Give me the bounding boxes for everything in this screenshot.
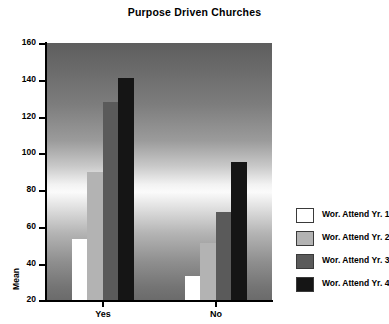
x-tick-label-no: No (186, 309, 246, 319)
legend-swatch-icon (296, 254, 314, 269)
bar-chart: Purpose Driven Churches 160 140 120 100 … (0, 0, 389, 324)
legend-swatch-icon (296, 277, 314, 292)
y-tick-mark-160 (39, 43, 46, 45)
legend-item[interactable]: Wor. Attend Yr. 4 (296, 275, 388, 298)
y-tick-mark-140 (39, 80, 46, 82)
y-tick-mark-80 (39, 190, 46, 192)
y-tick-mark-20 (39, 300, 46, 302)
bar-no-series-2 (200, 243, 216, 300)
y-tick-label-160: 160 (0, 38, 36, 47)
legend-swatch-icon (296, 231, 314, 246)
bar-no-series-4 (231, 162, 247, 300)
y-axis-title: Mean (11, 257, 21, 301)
bar-no-series-3 (216, 212, 232, 300)
y-tick-mark-60 (39, 227, 46, 229)
legend-item-label: Wor. Attend Yr. 2 (322, 232, 389, 243)
legend-item-label: Wor. Attend Yr. 1 (322, 209, 389, 220)
bar-yes-series-1 (72, 239, 88, 300)
bar-yes-series-2 (87, 172, 103, 301)
legend-item-label: Wor. Attend Yr. 3 (322, 255, 389, 266)
y-tick-label-100: 100 (0, 148, 36, 157)
y-tick-label-120: 120 (0, 112, 36, 121)
bar-no-series-1 (185, 276, 201, 300)
y-tick-mark-100 (39, 153, 46, 155)
legend-swatch-icon (296, 208, 314, 223)
y-tick-label-60: 60 (0, 222, 36, 231)
x-axis-line (45, 300, 273, 302)
y-tick-label-80: 80 (0, 185, 36, 194)
y-tick-mark-40 (39, 264, 46, 266)
y-tick-label-140: 140 (0, 75, 36, 84)
legend-item[interactable]: Wor. Attend Yr. 3 (296, 252, 388, 275)
bars-layer (46, 43, 272, 300)
x-tick-mark-yes (102, 301, 104, 307)
bar-yes-series-3 (103, 102, 119, 300)
legend: Wor. Attend Yr. 1 Wor. Attend Yr. 2 Wor.… (296, 206, 388, 298)
chart-title: Purpose Driven Churches (0, 6, 389, 18)
y-tick-mark-120 (39, 117, 46, 119)
bar-yes-series-4 (118, 78, 134, 300)
x-tick-mark-no (215, 301, 217, 307)
legend-item[interactable]: Wor. Attend Yr. 2 (296, 229, 388, 252)
x-tick-label-yes: Yes (73, 309, 133, 319)
legend-item[interactable]: Wor. Attend Yr. 1 (296, 206, 388, 229)
plot-area (46, 43, 272, 300)
legend-item-label: Wor. Attend Yr. 4 (322, 278, 389, 289)
